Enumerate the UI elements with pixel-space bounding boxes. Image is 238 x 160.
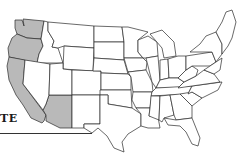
map-caption: TE [0,113,18,125]
state-south-dakota [94,42,124,60]
state-kansas [101,73,131,90]
state-missouri [128,70,153,92]
state-mississippi [149,96,160,120]
state-new-mexico [72,95,100,128]
state-arkansas [132,92,152,108]
state-colorado [72,70,101,95]
state-wyoming [63,46,94,71]
caption-divider [0,133,92,134]
state-iowa [124,58,147,72]
state-indiana [160,59,169,80]
us-map [0,0,238,160]
state-north-dakota [94,26,124,42]
state-florida [164,118,200,146]
state-montana [48,22,94,48]
